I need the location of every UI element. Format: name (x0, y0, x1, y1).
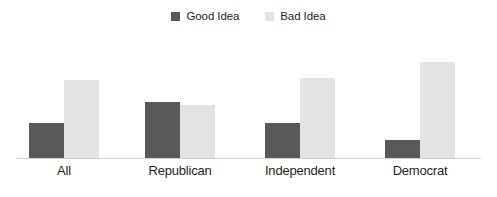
category-label-all: All (5, 163, 123, 178)
bar-republican-good-idea: 46% (145, 0, 180, 158)
bar-group-bars: 29% 66% (241, 0, 359, 158)
bar-group-independent: 29% 66% Independent (241, 0, 359, 197)
bar-independent-good-idea: 29% (265, 0, 300, 158)
bar-rect (300, 78, 335, 158)
plot-area: 29% 64% All 46% 44% (0, 0, 497, 197)
bar-rect (420, 62, 455, 158)
bar-group-bars: 29% 64% (5, 0, 123, 158)
bar-rect (180, 105, 215, 158)
bar-chart: Good Idea Bad Idea 29% 64% All (0, 0, 497, 197)
bar-group-republican: 46% 44% Republican (121, 0, 239, 197)
category-label-independent: Independent (241, 163, 359, 178)
bar-all-bad-idea: 64% (64, 0, 99, 158)
bar-rect (265, 123, 300, 158)
bar-democrat-good-idea: 15% (385, 0, 420, 158)
bar-rect (64, 80, 99, 158)
category-label-democrat: Democrat (361, 163, 479, 178)
bar-rect (29, 123, 64, 158)
bar-all-good-idea: 29% (29, 0, 64, 158)
bar-group-democrat: 15% 79% Democrat (361, 0, 479, 197)
bar-group-bars: 46% 44% (121, 0, 239, 158)
bar-democrat-bad-idea: 79% (420, 0, 455, 158)
bar-group-bars: 15% 79% (361, 0, 479, 158)
bar-group-all: 29% 64% All (5, 0, 123, 197)
bar-rect (385, 140, 420, 158)
bar-rect (145, 102, 180, 158)
category-label-republican: Republican (121, 163, 239, 178)
bar-independent-bad-idea: 66% (300, 0, 335, 158)
bar-republican-bad-idea: 44% (180, 0, 215, 158)
